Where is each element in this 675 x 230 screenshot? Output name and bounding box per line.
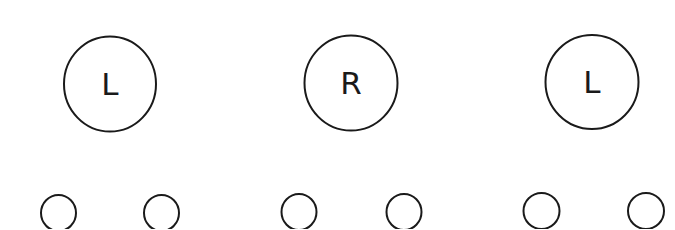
child-circle-3b xyxy=(628,193,664,229)
diagram-canvas: L R L xyxy=(0,0,675,229)
child-circle-1b xyxy=(144,195,179,229)
node-group-3: L xyxy=(524,35,665,229)
node-label-1: L xyxy=(101,66,119,102)
node-label-2: R xyxy=(340,65,362,101)
node-label-3: L xyxy=(583,64,601,100)
child-circle-2a xyxy=(282,194,317,229)
node-group-1: L xyxy=(41,37,179,230)
child-circle-1a xyxy=(41,195,76,229)
child-circle-2b xyxy=(387,194,422,229)
node-group-2: R xyxy=(282,36,422,230)
child-circle-3a xyxy=(524,193,560,229)
